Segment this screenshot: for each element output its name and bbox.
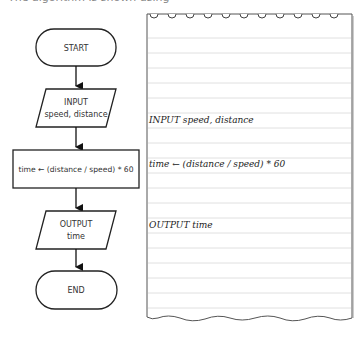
end-terminator: END <box>36 271 117 309</box>
output-parallelogram: OUTPUT time <box>36 211 116 249</box>
process-box: time ← (distance / speed) * 60 <box>13 150 139 188</box>
pseudocode-line-3: OUTPUT time <box>149 220 213 230</box>
input-vars: speed, distance <box>44 110 107 119</box>
output-vars: time <box>67 232 85 241</box>
input-parallelogram: INPUT speed, distance <box>36 89 116 127</box>
process-label: time ← (distance / speed) * 60 <box>18 165 133 174</box>
output-label: OUTPUT <box>60 220 93 229</box>
pseudocode-line-2: time ← (distance / speed) * 60 <box>149 159 285 169</box>
end-label: END <box>67 286 84 295</box>
input-label: INPUT <box>64 98 88 107</box>
start-label: START <box>64 44 89 53</box>
pseudocode-line-1: INPUT speed, distance <box>149 115 254 125</box>
start-terminator: START <box>36 29 116 66</box>
flowchart: START INPUT speed, distance time ← (dist… <box>0 0 362 338</box>
